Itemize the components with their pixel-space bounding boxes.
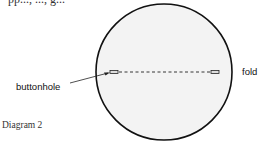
buttonhole-left (110, 71, 118, 74)
buttonhole-right (211, 71, 219, 74)
buttonhole-label: buttonhole (16, 81, 60, 92)
diagram-caption: Diagram 2 (2, 120, 43, 130)
diagram: buttonhole fold Diagram 2 (0, 0, 263, 143)
fold-label: fold (242, 66, 257, 77)
